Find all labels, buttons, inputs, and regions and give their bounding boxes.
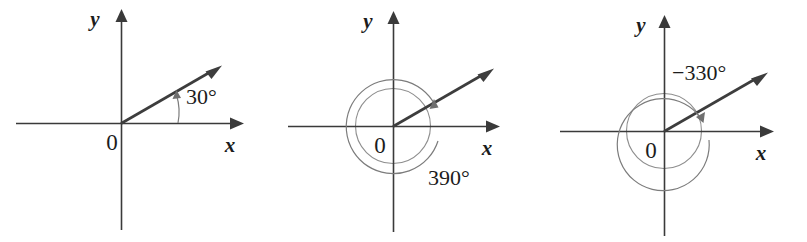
panel2-x-axis-arrowhead [486, 121, 500, 133]
panel2-y-axis-arrowhead [388, 11, 400, 24]
panel1-y-axis-label: y [87, 7, 100, 31]
panel2-terminal-ray-arrowhead [478, 69, 495, 83]
panel3-y-axis-label: y [633, 13, 646, 37]
panel1-x-axis-arrowhead [230, 118, 244, 130]
panel2-y-axis-label: y [360, 9, 373, 33]
panel2-origin-label: 0 [374, 133, 386, 158]
panel3-terminal-ray-arrowhead [751, 73, 768, 87]
panel3-terminal-ray [664, 78, 757, 132]
panel3-origin-label: 0 [645, 138, 657, 163]
panel3-rotation-arc [617, 99, 709, 191]
panel3-angle-label: −330° [672, 60, 726, 85]
coterminal-angles-figure: y x 0 30° y x 0 390° [0, 0, 807, 242]
panel2-angle-label: 390° [428, 165, 470, 190]
figure-canvas: y x 0 30° y x 0 390° [0, 0, 807, 242]
panel1-rotation-arc [177, 95, 180, 123]
panel2-x-axis-label: x [481, 136, 493, 160]
panel1-origin-label: 0 [106, 130, 118, 155]
panel1-angle-label: 30° [186, 84, 217, 109]
panel-390-degrees: y x 0 390° [288, 9, 500, 232]
panel-30-degrees: y x 0 30° [16, 7, 244, 230]
panel1-terminal-ray-arrowhead [206, 66, 223, 80]
panel1-x-axis-label: x [224, 133, 236, 157]
panel3-x-axis-label: x [755, 141, 767, 165]
panel1-y-axis-arrowhead [116, 9, 128, 22]
panel3-x-axis-arrowhead [760, 126, 774, 138]
panel-minus-330-degrees: y x 0 −330° [560, 13, 774, 236]
panel3-y-axis-arrowhead [659, 15, 671, 28]
